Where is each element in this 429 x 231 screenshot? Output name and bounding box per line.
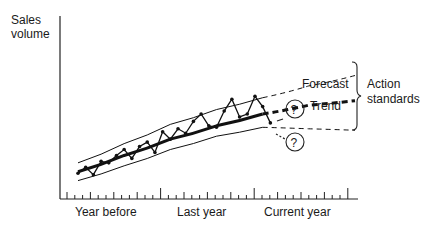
x-period-label-current-year: Current year (264, 205, 331, 219)
actual-sales-point (238, 115, 242, 119)
series-trend (78, 114, 263, 172)
action-standards-label-line1: Action (367, 77, 400, 91)
series-layer (76, 76, 355, 181)
actual-sales-point (253, 94, 257, 98)
question-mark-lower: ? (286, 133, 304, 151)
actual-sales-point (130, 157, 134, 161)
series-lower-band (78, 127, 263, 180)
x-period-label-year-before: Year before (75, 205, 137, 219)
y-axis-label-line1: Sales (11, 13, 41, 27)
y-axis-label-line2: volume (11, 27, 50, 41)
question-mark-upper: ? (286, 100, 304, 118)
series-forecast-lower (263, 127, 355, 130)
action-standards-bracket (352, 62, 361, 130)
actual-sales-point (245, 112, 249, 116)
actual-sales-point (261, 105, 265, 109)
svg-text:?: ? (291, 136, 298, 150)
x-axis-ticks (67, 188, 348, 199)
actual-sales-point (269, 121, 273, 125)
actual-sales-point (138, 145, 142, 149)
actual-sales-point (192, 120, 196, 124)
sales-forecast-chart: Sales volume Year before Last year Curre… (0, 0, 429, 231)
series-trend-forecast (263, 101, 355, 114)
actual-sales-point (230, 97, 234, 101)
arrow-to-lower-question (276, 134, 285, 139)
x-period-label-last-year: Last year (177, 205, 226, 219)
actual-sales-point (122, 148, 126, 152)
actual-sales-point (161, 130, 165, 134)
actual-sales-point (153, 151, 157, 155)
arrow-to-upper-question (277, 119, 283, 121)
actual-sales-point (145, 140, 149, 144)
trend-label: Trend (310, 99, 341, 113)
actual-sales-point (176, 127, 180, 131)
svg-text:?: ? (291, 103, 298, 117)
forecast-label: Forecast (302, 77, 349, 91)
actual-sales-point (222, 109, 226, 113)
action-standards-label-line2: standards (367, 92, 420, 106)
